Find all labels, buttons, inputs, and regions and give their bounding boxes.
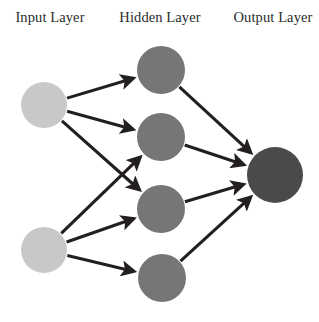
label-hidden-layer: Hidden Layer [119,9,200,25]
network-edges [61,78,251,271]
edge-i1-to-h1 [67,78,134,98]
edge-h1-to-o1 [179,87,251,153]
neural-network-figure: Input Layer Hidden Layer Output Layer [0,0,319,322]
node-i2 [21,227,67,273]
node-o1 [247,147,303,203]
edge-i1-to-h2 [67,111,133,129]
edge-h2-to-o1 [185,145,244,165]
network-canvas: Input Layer Hidden Layer Output Layer [0,0,319,322]
node-h3 [137,185,185,233]
label-output-layer: Output Layer [234,9,313,25]
edge-i2-to-h4 [67,256,134,272]
node-h2 [137,113,185,161]
node-h1 [137,46,185,94]
edge-i1-to-h3 [62,121,140,190]
label-input-layer: Input Layer [15,9,84,25]
edge-h3-to-o1 [185,184,244,202]
edge-h4-to-o1 [180,197,250,261]
network-nodes [21,46,303,302]
node-i1 [21,82,67,128]
edge-i2-to-h3 [67,218,134,242]
node-h4 [138,254,186,302]
layer-labels: Input Layer Hidden Layer Output Layer [15,9,312,25]
